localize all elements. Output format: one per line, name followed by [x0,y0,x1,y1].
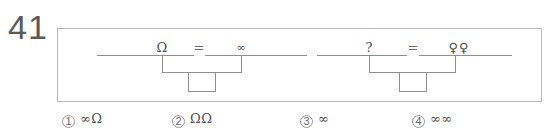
option-3-value: ∞ [318,112,329,125]
option-3-number: 3 [300,115,313,128]
diagram-area: Ω = ∞ ? = ♀♀ [57,28,542,102]
options-row: 1 ∞Ω 2 ΩΩ 3 ∞ 4 ∞∞ [0,112,552,138]
option-2[interactable]: 2 ΩΩ [172,112,213,126]
option-1-number: 1 [62,115,75,128]
option-3[interactable]: 3 ∞ [300,112,329,126]
option-1[interactable]: 1 ∞Ω [62,112,103,126]
option-4-number: 4 [412,115,425,128]
question-number: 41 [8,10,48,44]
option-4-value: ∞∞ [430,112,453,125]
eq2-left-label: ? [366,40,373,55]
equation-2-figure [317,56,512,92]
eq2-offspring-box [400,73,427,92]
equation-1-figure [97,56,307,92]
eq1-offspring-box [189,73,216,92]
diagram-svg: Ω = ∞ ? = ♀♀ [57,28,542,102]
eq1-left-label: Ω [157,40,168,55]
eq1-operator: = [194,40,205,55]
option-1-value: ∞Ω [80,112,103,125]
eq2-operator: = [408,40,419,55]
option-2-number: 2 [172,115,185,128]
eq1-right-label: ∞ [236,41,245,54]
eq2-right-label: ♀♀ [448,40,469,55]
option-4[interactable]: 4 ∞∞ [412,112,453,126]
option-2-value: ΩΩ [190,112,213,125]
